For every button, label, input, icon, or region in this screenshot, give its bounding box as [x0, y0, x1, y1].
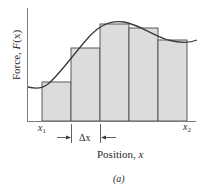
x1-label: x1 — [37, 122, 46, 135]
force-position-diagram: Force, F(x) x1 x2 Δx Position, x (a) — [0, 0, 205, 187]
x2-label: x2 — [182, 121, 191, 134]
x-axis-label: Position, x — [97, 148, 144, 160]
rectangle-5 — [158, 40, 187, 121]
rectangle-1 — [42, 82, 71, 121]
rectangle-4 — [129, 28, 158, 121]
delta-x-label: Δx — [79, 132, 90, 143]
arrow-left-head — [66, 136, 71, 140]
figure-caption: (a) — [113, 173, 125, 185]
y-axis-label: Force, F(x) — [10, 30, 23, 80]
rectangle-3 — [100, 24, 129, 121]
rectangle-2 — [71, 48, 100, 121]
arrow-right-head — [101, 136, 106, 140]
